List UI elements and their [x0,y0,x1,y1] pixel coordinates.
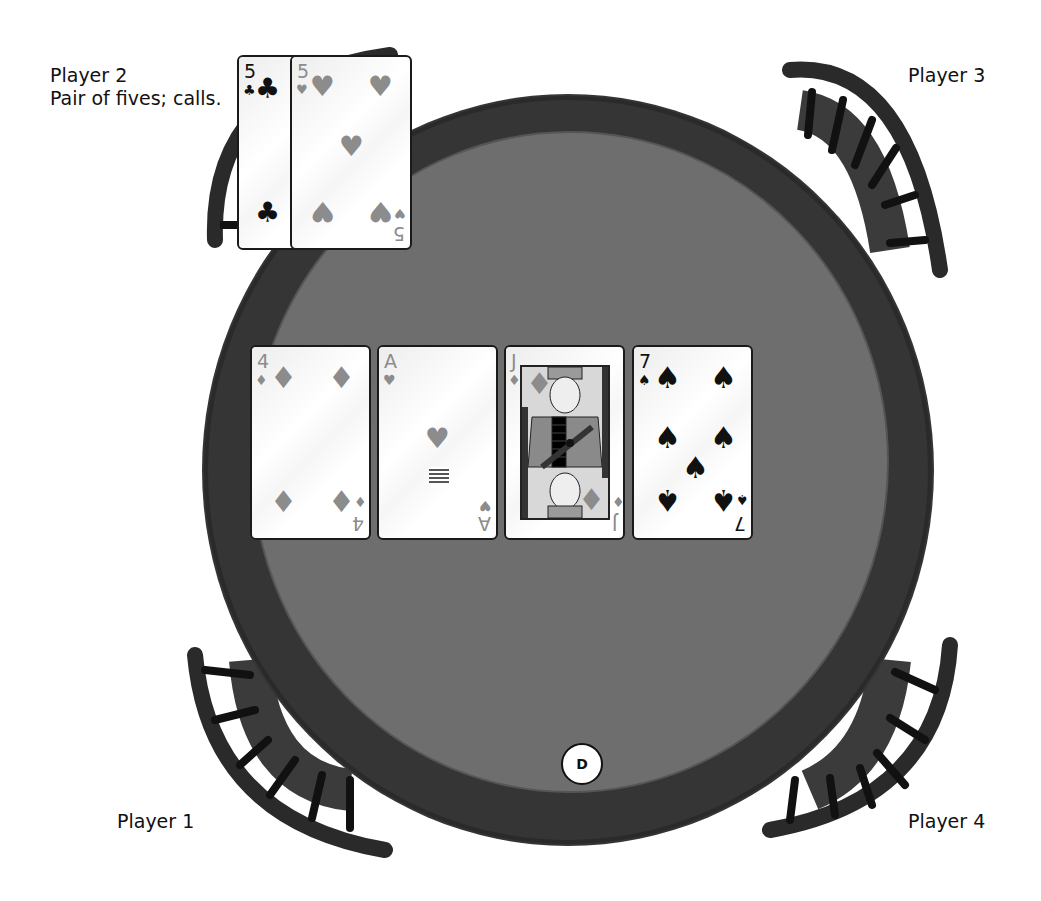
community-card-jack-diamonds[interactable]: J ♦ ♦ ♦ ♦ J [504,345,625,540]
club-icon: ♣ [255,199,280,227]
diamond-icon: ♦ [354,495,367,509]
heart-icon: ♥ [310,197,335,225]
spade-icon: ♠ [638,373,651,387]
card-rank: 7 [639,352,651,371]
heart-icon: ♥ [479,499,492,513]
spade-icon: ♠ [654,485,681,515]
diamond-icon: ♦ [578,485,605,515]
card-rank: A [384,352,397,371]
spade-icon: ♠ [710,423,737,453]
spade-icon: ♠ [710,485,737,515]
community-card-7-spades[interactable]: 7 ♠ ♠ ♠ ♠ ♠ ♠ ♠ ♠ ♠ 7 [632,345,753,540]
club-icon: ♣ [243,83,256,97]
heart-icon: ♥ [339,133,364,161]
spade-icon: ♠ [710,363,737,393]
player-2-card-5-hearts[interactable]: 5 ♥ ♥ ♥ ♥ ♥ ♥ ♥ 5 [290,55,412,250]
player-2-status: Pair of fives; calls. [50,87,222,110]
heart-icon: ♥ [394,207,406,220]
diamond-icon: ♦ [270,363,297,393]
dealer-button: D [561,743,603,785]
spade-icon: ♠ [654,423,681,453]
diamond-icon: ♦ [526,369,553,399]
diamond-icon: ♦ [328,363,355,393]
card-rank: 5 [393,224,405,243]
player-4-label: Player 4 [908,810,985,833]
card-rank: 4 [352,514,364,533]
card-rank: 4 [257,352,269,371]
card-rank: A [478,514,491,533]
community-card-4-diamonds[interactable]: 4 ♦ ♦ ♦ ♦ ♦ ♦ 4 [250,345,371,540]
heart-icon: ♥ [368,73,393,101]
spade-icon: ♠ [654,363,681,393]
diamond-icon: ♦ [508,373,521,387]
player-1-label: Player 1 [117,810,194,833]
heart-icon: ♥ [368,197,393,225]
card-rank: J [612,514,618,533]
diamond-icon: ♦ [255,373,268,387]
card-rank: 5 [297,62,309,81]
heart-icon: ♥ [383,373,396,387]
card-rank: J [511,352,517,371]
player-3-label: Player 3 [908,64,985,87]
diamond-icon: ♦ [328,487,355,517]
card-maker-logo-icon [429,467,449,483]
jack-face-art: ♦ ♦ [520,365,610,520]
heart-icon: ♥ [310,73,335,101]
diamond-icon: ♦ [270,487,297,517]
diamond-icon: ♦ [612,495,625,509]
community-card-ace-hearts[interactable]: A ♥ ♥ ♥ A [377,345,498,540]
card-rank: 7 [734,514,746,533]
heart-icon: ♥ [296,83,308,96]
heart-icon: ♥ [425,425,450,453]
club-icon: ♣ [255,75,280,103]
spade-icon: ♠ [682,453,709,483]
player-2-name: Player 2 [50,64,222,87]
spade-icon: ♠ [736,493,749,507]
player-2-label: Player 2 Pair of fives; calls. [50,64,222,110]
